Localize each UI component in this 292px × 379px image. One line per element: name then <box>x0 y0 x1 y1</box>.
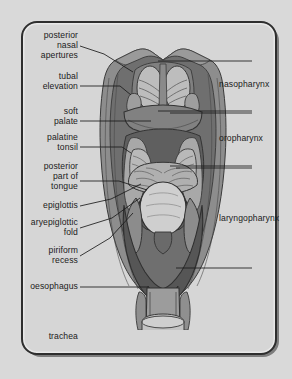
trachea-center-dot <box>162 336 164 338</box>
label-palatine-tonsil: palatine tonsil <box>0 133 78 153</box>
label-aryepiglottic-fold: aryepiglottic fold <box>0 218 78 238</box>
label-oesophagus: oesophagus <box>0 282 78 292</box>
trachea-cartilage-rings <box>142 331 184 345</box>
label-trachea: trachea <box>0 332 78 342</box>
label-epiglottis: epiglottis <box>0 201 78 211</box>
label-nasopharynx: nasopharynx <box>219 80 291 90</box>
label-piriform-recess: piriform recess <box>0 246 78 266</box>
label-soft-palate: soft palate <box>0 107 78 127</box>
label-posterior-nasal-apertures: posterior nasal apertures <box>0 31 78 60</box>
label-laryngopharynx: laryngopharynx <box>219 214 291 224</box>
trachea-top-rim <box>142 316 184 328</box>
label-tubal-elevation: tubal elevation <box>0 72 78 92</box>
label-posterior-part-of-tongue: posterior part of tongue <box>0 162 78 191</box>
label-oropharynx: oropharynx <box>219 134 291 144</box>
nasal-septum <box>159 64 167 110</box>
anatomy-figure-root: posterior nasal apertures tubal elevatio… <box>0 0 292 379</box>
